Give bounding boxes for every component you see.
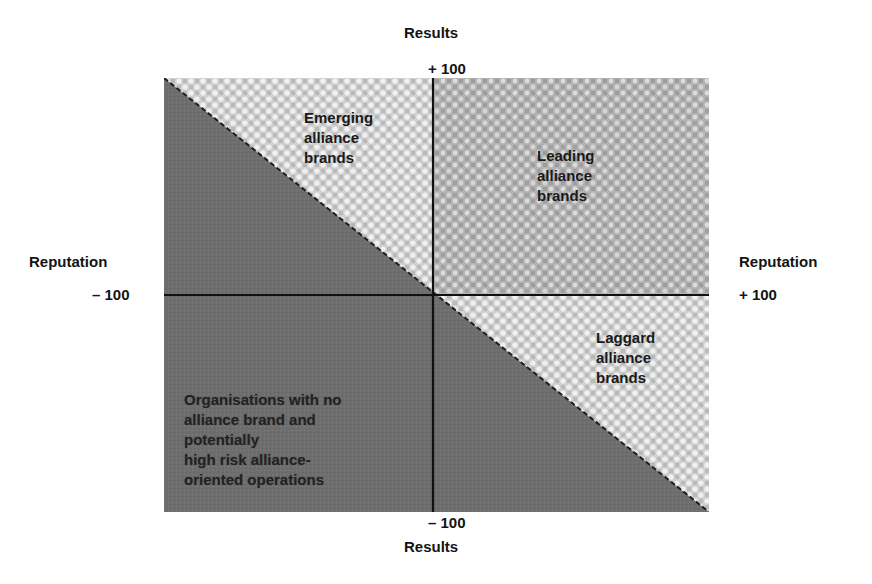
laggard-alliance-brands-label: Laggard alliance brands <box>596 328 655 388</box>
leading-alliance-brands-label: Leading alliance brands <box>537 146 595 206</box>
results-min-tick-label: – 100 <box>428 514 466 532</box>
reputation-axis-right-label: Reputation <box>739 253 817 271</box>
reputation-max-tick-label: + 100 <box>739 286 777 304</box>
quadrant-plot: Emerging alliance brands Leading allianc… <box>164 78 709 512</box>
reputation-min-tick-label: – 100 <box>92 286 130 304</box>
results-axis-top-label: Results <box>404 24 458 42</box>
no-alliance-brand-label: Organisations with no alliance brand and… <box>184 390 342 490</box>
emerging-alliance-brands-label: Emerging alliance brands <box>304 108 373 168</box>
reputation-axis-left-label: Reputation <box>29 253 107 271</box>
results-axis-bottom-label: Results <box>404 538 458 556</box>
results-max-tick-label: + 100 <box>428 60 466 78</box>
